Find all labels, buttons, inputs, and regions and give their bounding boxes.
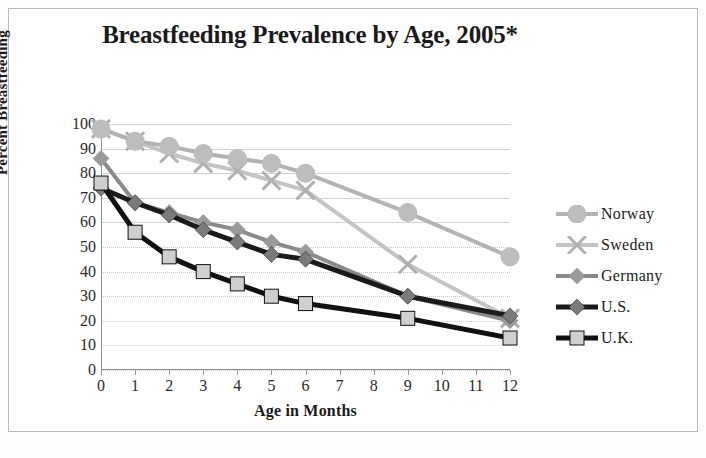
legend-swatch-icon <box>556 331 598 345</box>
data-point <box>229 234 245 250</box>
data-point <box>162 250 176 264</box>
x-tick-mark-10 <box>442 370 443 375</box>
x-tick-mark-7 <box>340 370 341 375</box>
x-tick-mark-11 <box>476 370 477 375</box>
data-point <box>160 137 179 156</box>
x-tick-mark-5 <box>271 370 272 375</box>
data-point <box>230 277 244 291</box>
x-tick-mark-6 <box>306 370 307 375</box>
legend-label: U.K. <box>601 329 633 347</box>
x-tick-8: 8 <box>359 377 389 395</box>
x-tick-2: 2 <box>154 377 184 395</box>
data-point <box>401 311 415 325</box>
legend-item-sweden[interactable]: Sweden <box>556 229 686 260</box>
legend-item-norway[interactable]: Norway <box>556 198 686 229</box>
data-point <box>194 144 213 163</box>
x-tick-7: 7 <box>325 377 355 395</box>
legend-label: Germany <box>601 267 663 285</box>
data-point <box>296 164 315 183</box>
y-tick-90: 90 <box>56 140 96 158</box>
x-tick-5: 5 <box>256 377 286 395</box>
x-tick-mark-9 <box>408 370 409 375</box>
x-tick-mark-12 <box>510 370 511 375</box>
legend-label: Sweden <box>601 236 653 254</box>
x-tick-mark-4 <box>237 370 238 375</box>
data-point <box>92 119 111 138</box>
series-line <box>101 129 510 318</box>
plot-area <box>101 124 510 370</box>
y-tick-50: 50 <box>56 238 96 256</box>
data-point <box>264 289 278 303</box>
y-tick-40: 40 <box>56 263 96 281</box>
x-tick-10: 10 <box>427 377 457 395</box>
legend-label: Norway <box>601 205 654 223</box>
x-tick-6: 6 <box>291 377 321 395</box>
legend-swatch-icon <box>556 207 598 221</box>
y-axis-tick-labels: 0102030405060708090100 <box>50 124 96 370</box>
legend-swatch-icon <box>556 238 598 252</box>
data-point <box>399 255 417 273</box>
x-tick-mark-3 <box>203 370 204 375</box>
legend-item-uk[interactable]: U.K. <box>556 322 686 353</box>
x-tick-9: 9 <box>393 377 423 395</box>
y-axis-title: Percent Breastfeeding <box>0 30 11 175</box>
legend-swatch-icon <box>556 269 598 283</box>
data-point <box>262 154 281 173</box>
x-tick-3: 3 <box>188 377 218 395</box>
x-tick-mark-8 <box>374 370 375 375</box>
y-tick-60: 60 <box>56 213 96 231</box>
x-axis-title: Age in Months <box>101 402 510 420</box>
data-point <box>128 225 142 239</box>
data-point <box>263 246 279 262</box>
y-tick-100: 100 <box>56 115 96 133</box>
y-tick-80: 80 <box>56 164 96 182</box>
y-tick-10: 10 <box>56 336 96 354</box>
data-point <box>126 132 145 151</box>
x-tick-11: 11 <box>461 377 491 395</box>
y-tick-20: 20 <box>56 312 96 330</box>
x-tick-mark-1 <box>135 370 136 375</box>
x-tick-mark-0 <box>101 370 102 375</box>
data-point <box>228 149 247 168</box>
data-point <box>398 203 417 222</box>
y-tick-30: 30 <box>56 287 96 305</box>
data-point <box>299 297 313 311</box>
x-axis-tick-labels: 0123456789101112 <box>101 377 510 401</box>
chart-title: Breastfeeding Prevalence by Age, 2005* <box>40 20 580 50</box>
data-point <box>501 247 520 266</box>
legend-item-germany[interactable]: Germany <box>556 260 686 291</box>
legend: NorwaySwedenGermanyU.S.U.K. <box>556 198 686 353</box>
data-point <box>196 265 210 279</box>
data-point <box>94 176 108 190</box>
x-tick-12: 12 <box>495 377 525 395</box>
data-point <box>400 288 416 304</box>
figure-container: Breastfeeding Prevalence by Age, 2005* P… <box>0 0 706 458</box>
x-tick-4: 4 <box>222 377 252 395</box>
data-point <box>503 331 517 345</box>
x-tick-0: 0 <box>86 377 116 395</box>
x-tick-mark-2 <box>169 370 170 375</box>
legend-swatch-icon <box>556 300 598 314</box>
legend-item-us[interactable]: U.S. <box>556 291 686 322</box>
x-tick-1: 1 <box>120 377 150 395</box>
y-tick-70: 70 <box>56 189 96 207</box>
legend-label: U.S. <box>601 298 631 316</box>
data-series-layer <box>101 124 510 370</box>
